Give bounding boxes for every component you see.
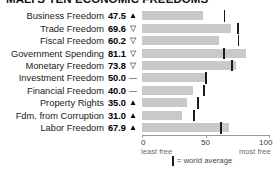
trend-up-icon: ▲	[126, 111, 140, 121]
row-value: 40.0	[104, 86, 126, 96]
row-plot	[142, 35, 270, 47]
world-average-tick	[197, 97, 199, 108]
bar	[142, 36, 219, 45]
row-label: Fdm. from Corruption	[0, 111, 104, 121]
row-label: Financial Freedom	[0, 86, 104, 96]
trend-flat-icon: —	[126, 73, 140, 83]
row-plot	[142, 97, 270, 109]
row-value: 31.0	[104, 111, 126, 121]
world-average-tick	[220, 122, 222, 133]
chart-row: Fdm. from Corruption31.0▲	[0, 110, 280, 122]
chart-row: Trade Freedom69.6▽	[0, 22, 280, 34]
row-plot	[142, 10, 270, 22]
bar	[142, 98, 187, 107]
row-value: 60.2	[104, 36, 126, 46]
bar	[142, 11, 203, 20]
x-axis-label-100: 100	[259, 138, 272, 147]
bar	[142, 61, 236, 70]
trend-up-icon: ▲	[126, 98, 140, 108]
row-plot	[142, 110, 270, 122]
trend-down-icon: ▽	[126, 36, 140, 46]
world-average-tick	[237, 23, 239, 34]
legend-label: = world average	[177, 156, 233, 166]
row-label: Fiscal Freedom	[0, 36, 104, 46]
bar	[142, 24, 231, 33]
row-label: Property Rights	[0, 98, 104, 108]
chart-row: Business Freedom47.5▲	[0, 10, 280, 22]
world-average-tick	[238, 35, 240, 46]
axis-annotation-most-free: most free	[239, 147, 271, 156]
bar	[142, 86, 193, 95]
row-value: 81.1	[104, 49, 126, 59]
world-average-tick	[193, 110, 195, 121]
row-value: 47.5	[104, 11, 126, 21]
row-value: 50.0	[104, 73, 126, 83]
row-plot	[142, 47, 270, 59]
trend-up-icon: ▲	[126, 123, 140, 133]
world-average-tick	[205, 72, 207, 83]
trend-down-icon: ▽	[126, 49, 140, 59]
world-average-tick	[223, 48, 225, 59]
chart-row: Government Spending81.1▽	[0, 47, 280, 59]
chart-row: Property Rights35.0▲	[0, 97, 280, 109]
chart-row: Monetary Freedom73.8▽	[0, 60, 280, 72]
bar	[142, 123, 229, 132]
chart-row: Fiscal Freedom60.2▽	[0, 35, 280, 47]
chart-row: Labor Freedom67.9▲	[0, 122, 280, 134]
row-plot	[142, 122, 270, 134]
axis-annotation-least-free: least free	[141, 147, 172, 156]
world-average-tick-icon	[172, 156, 174, 166]
bar	[142, 111, 182, 120]
row-label: Monetary Freedom	[0, 61, 104, 71]
row-value: 67.9	[104, 123, 126, 133]
row-value: 35.0	[104, 98, 126, 108]
row-value: 69.6	[104, 24, 126, 34]
row-plot	[142, 72, 270, 84]
row-label: Labor Freedom	[0, 123, 104, 133]
legend: = world average	[172, 156, 232, 166]
row-label: Investment Freedom	[0, 73, 104, 83]
trend-up-icon: ▲	[126, 11, 140, 21]
chart-row: Investment Freedom50.0—	[0, 72, 280, 84]
chart-rows: Business Freedom47.5▲Trade Freedom69.6▽F…	[0, 10, 280, 134]
bar	[142, 49, 246, 58]
row-plot	[142, 60, 270, 72]
world-average-tick	[203, 85, 205, 96]
trend-down-icon: ▽	[126, 24, 140, 34]
world-average-tick	[224, 10, 226, 21]
page-title: MALI'S TEN ECONOMIC FREEDOMS	[6, 0, 208, 5]
x-axis-label-50: 50	[201, 138, 210, 147]
x-axis-label-0: 0	[141, 138, 145, 147]
row-plot	[142, 85, 270, 97]
world-average-tick	[231, 60, 233, 71]
trend-down-icon: ▽	[126, 61, 140, 71]
row-label: Government Spending	[0, 49, 104, 59]
row-plot	[142, 22, 270, 34]
row-label: Trade Freedom	[0, 24, 104, 34]
chart-row: Financial Freedom40.0—	[0, 85, 280, 97]
row-value: 73.8	[104, 61, 126, 71]
bar	[142, 73, 206, 82]
row-label: Business Freedom	[0, 11, 104, 21]
trend-flat-icon: —	[126, 86, 140, 96]
